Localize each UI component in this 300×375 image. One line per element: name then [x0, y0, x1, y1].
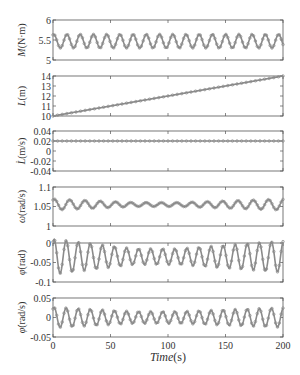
y-tick-label: 6 — [46, 15, 51, 26]
data-line — [53, 76, 283, 116]
subplot-stack: 55.56M(N·m)1011121314L(m)-0.04-0.0200.02… — [16, 15, 284, 343]
y-tick-label: -0.04 — [30, 166, 51, 177]
y-tick-label: 0.05 — [34, 293, 52, 304]
y-axis-label: M(N·m) — [16, 23, 28, 57]
y-tick-label: 0 — [46, 146, 51, 157]
y-tick-label: 13 — [41, 81, 51, 92]
y-tick-label: 1.05 — [34, 201, 52, 212]
y-axis-label: L(m) — [16, 86, 28, 107]
y-tick-label: 0 — [46, 238, 51, 249]
y-tick-label: 12 — [41, 91, 51, 102]
y-tick-label: 0.04 — [34, 126, 52, 137]
subplot-L: 1011121314L(m) — [16, 71, 284, 122]
y-axis-label: ω(rad/s) — [16, 190, 28, 223]
y-tick-label: 5 — [46, 55, 51, 66]
y-tick-label: 11 — [41, 101, 51, 112]
y-tick-label: 5.5 — [39, 35, 52, 46]
x-tick-label: 200 — [276, 340, 291, 351]
y-axis-label: L̇(m/s) — [16, 138, 28, 166]
y-tick-label: 1 — [46, 221, 51, 232]
y-axis-label: φ(rad) — [16, 250, 28, 275]
y-tick-label: 14 — [41, 71, 51, 82]
y-tick-label: 0.02 — [34, 136, 52, 147]
subplot-M: 55.56M(N·m) — [16, 15, 284, 66]
subplot-Ldot: -0.04-0.0200.020.04L̇(m/s) — [16, 126, 284, 177]
y-tick-label: -0.02 — [30, 156, 51, 167]
subplot-phidot: -0.0500.05φ̇(rad/s) — [16, 293, 284, 343]
y-tick-label: -0.05 — [30, 332, 51, 343]
subplot-phi: -0.1-0.050φ(rad) — [16, 238, 284, 288]
y-tick-label: -0.1 — [35, 277, 51, 288]
y-axis-label: φ̇(rad/s) — [16, 302, 28, 334]
y-tick-label: 0 — [46, 312, 51, 323]
y-tick-label: 10 — [41, 111, 51, 122]
y-tick-label: 1.1 — [39, 182, 52, 193]
axes-frame — [53, 131, 283, 171]
x-axis: 050100150200Time(s) — [51, 340, 291, 364]
x-tick-label: 150 — [218, 340, 233, 351]
x-tick-label: 0 — [51, 340, 56, 351]
x-axis-title: Time(s) — [150, 350, 186, 364]
subplot-omega: 11.051.1ω(rad/s) — [16, 182, 284, 232]
y-tick-label: -0.05 — [30, 257, 51, 268]
figure: 55.56M(N·m)1011121314L(m)-0.04-0.0200.02… — [0, 0, 300, 375]
x-tick-label: 50 — [106, 340, 116, 351]
